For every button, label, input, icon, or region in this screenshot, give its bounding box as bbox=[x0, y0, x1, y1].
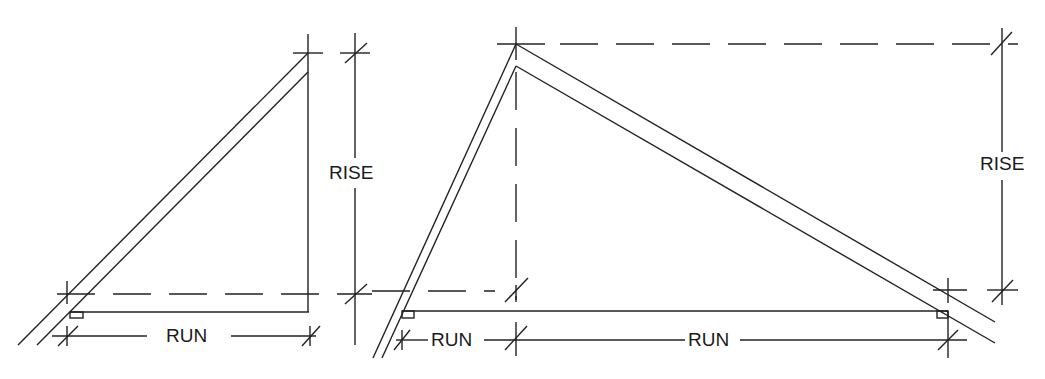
left-run-label: RUN bbox=[163, 326, 210, 346]
right-run-right-label: RUN bbox=[685, 330, 732, 350]
left-rise-label: RISE bbox=[326, 163, 376, 183]
right-figure bbox=[372, 27, 1018, 358]
right-rise-label: RISE bbox=[977, 154, 1027, 174]
rafter-rise-run-diagram bbox=[0, 0, 1045, 379]
right-run-left-label: RUN bbox=[428, 330, 475, 350]
left-figure bbox=[18, 33, 372, 346]
